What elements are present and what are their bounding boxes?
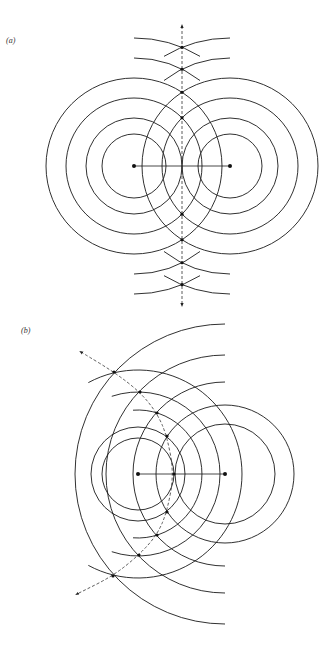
right-source-arc-bottom [164,276,230,294]
intersection-dot [111,574,114,577]
intersection-dot [172,472,175,475]
intersection-dot [155,411,158,414]
intersection-dot [180,91,183,94]
right-source-arc-top [164,38,230,56]
right-source-arc-top [164,58,230,81]
left-source-arc-bottom [134,251,200,274]
panel-a [46,26,318,305]
intersection-dot [180,283,183,286]
intersection-dot [180,116,183,119]
intersection-dot [165,434,168,437]
left-source-arc-bottom [134,276,200,294]
intersection-dot [165,510,168,513]
intersection-dot [180,68,183,71]
intersection-dot [137,553,140,556]
right-source-point [228,164,232,168]
left-source-arc-top [134,38,200,56]
intersection-dot [180,46,183,49]
left-source-point [136,472,140,476]
intersection-dot [155,533,158,536]
right-source-point [223,472,227,476]
right-source-arc-bottom [164,251,230,274]
left-source-arc-top [134,58,200,81]
diagram-canvas [0,0,333,646]
panel-b [75,324,294,624]
intersection-dot [180,213,183,216]
intersection-dot [180,238,183,241]
intersection-dot [138,390,141,393]
left-source-point [132,164,136,168]
intersection-dot [180,261,183,264]
intersection-dot [112,370,115,373]
